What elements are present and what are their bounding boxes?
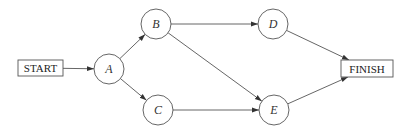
node-finish: FINISH (341, 60, 393, 77)
edge-a-to-b (120, 34, 145, 58)
node-start: START (18, 60, 63, 76)
edge-a-to-c (121, 79, 147, 101)
node-label: START (24, 62, 58, 74)
activity-network-diagram: STARTABCDEFINISH (0, 0, 413, 138)
nodes: STARTABCDEFINISH (18, 9, 393, 125)
edge-e-to-finish (288, 77, 348, 104)
node-label: B (152, 17, 160, 31)
node-a: A (94, 54, 124, 84)
edge-b-to-e (168, 33, 262, 101)
node-label: C (154, 103, 163, 117)
node-label: E (269, 103, 278, 117)
node-e: E (259, 95, 289, 125)
node-label: A (104, 62, 113, 76)
node-b: B (141, 9, 171, 39)
node-label: FINISH (349, 63, 385, 75)
node-label: D (268, 17, 278, 31)
node-c: C (143, 95, 173, 125)
node-d: D (258, 9, 288, 39)
edge-d-to-finish (287, 30, 349, 60)
